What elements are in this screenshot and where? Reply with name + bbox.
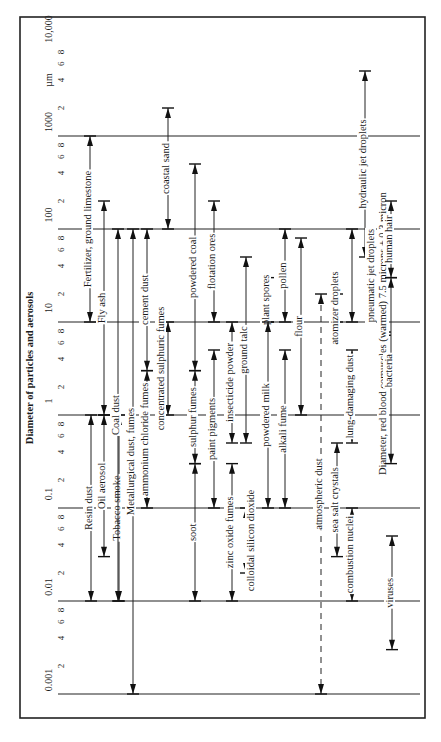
range-label: cement dust xyxy=(139,275,150,326)
arrow-down-icon xyxy=(130,684,136,694)
range-label: lung-damaging dust xyxy=(344,355,355,439)
minor-tick-label: 4 xyxy=(56,449,66,454)
arrow-up-icon xyxy=(362,71,368,81)
minor-tick-label: 6 xyxy=(56,154,66,159)
range-label: paint pigments xyxy=(206,398,217,460)
range-label: ammonium chloride fumes xyxy=(139,383,150,496)
range-label: Tobacco smoke xyxy=(111,475,122,541)
arrow-down-icon xyxy=(298,405,304,415)
range-bar: cement dust xyxy=(139,229,153,371)
range-label: pollen xyxy=(277,262,288,289)
range-bar: coastal sand xyxy=(160,108,174,229)
arrow-down-icon xyxy=(144,498,150,508)
arrow-down-icon xyxy=(282,498,288,508)
arrow-down-icon xyxy=(211,312,217,322)
range-label: Coal dust xyxy=(110,395,121,435)
range-label: bacteria xyxy=(383,354,394,388)
range-label: pneumatic jet droplets xyxy=(365,229,376,322)
range-label: flour xyxy=(293,316,304,337)
range-label: Resin dust xyxy=(83,486,94,530)
range-bar: flour xyxy=(293,238,307,415)
arrow-up-icon xyxy=(211,201,217,211)
arrow-up-icon xyxy=(229,464,235,474)
range-label: ground talc xyxy=(238,326,249,374)
range-label: coastal sand xyxy=(160,142,171,194)
range-label: concentrated sulphuric fumes xyxy=(155,307,166,431)
range-bar: powdered coal xyxy=(187,164,201,371)
minor-tick-label: 6 xyxy=(56,526,66,531)
range-bar: Oil aerosol xyxy=(96,415,110,557)
range-label: powdered milk xyxy=(260,383,271,447)
decade-label: 10,000 xyxy=(43,15,54,43)
minor-tick-label: 4 xyxy=(56,356,66,361)
range-label: alkali fume xyxy=(277,405,288,453)
range-label: Fly ash xyxy=(96,292,107,323)
minor-tick-label: 2 xyxy=(56,292,66,297)
arrow-up-icon xyxy=(101,415,107,425)
arrow-up-icon xyxy=(101,201,107,211)
diagram-canvas: 0.00124680.0124680.124681246810246810024… xyxy=(0,0,441,742)
arrow-down-icon xyxy=(192,361,198,371)
minor-tick-label: 2 xyxy=(56,385,66,390)
axis-title: Diameter of particles and aerosols xyxy=(24,292,35,444)
range-label: hydraulic jet droplets xyxy=(357,119,368,208)
minor-tick-label: 2 xyxy=(56,478,66,483)
arrow-down-icon xyxy=(101,405,107,415)
range-bar: colloidal silicon dioxide xyxy=(240,488,256,592)
range-label: human hair xyxy=(383,215,394,263)
arrow-up-icon xyxy=(211,350,217,360)
arrow-up-icon xyxy=(88,415,94,425)
minor-tick-label: 8 xyxy=(56,49,66,54)
minor-tick-label: 6 xyxy=(56,340,66,345)
arrow-up-icon xyxy=(229,322,235,332)
range-label: insecticide powder xyxy=(224,342,235,422)
range-bar: pneumatic jet droplets xyxy=(346,228,376,323)
decade-label: 0.001 xyxy=(43,669,54,692)
arrow-up-icon xyxy=(282,229,288,239)
arrow-down-icon xyxy=(165,219,171,229)
minor-tick-label: 6 xyxy=(56,433,66,438)
arrow-down-icon xyxy=(282,312,288,322)
range-bar: ammonium chloride fumes xyxy=(139,371,153,508)
arrow-down-icon xyxy=(349,312,355,322)
range-bar: plant spores xyxy=(260,274,274,326)
arrow-up-icon xyxy=(192,371,198,381)
range-bar: Metallurgical dust, fumes xyxy=(125,229,139,694)
arrow-up-icon xyxy=(298,238,304,248)
range-bar: combustion nuclei xyxy=(344,508,358,601)
arrow-up-icon xyxy=(87,136,93,146)
range-label: Metallurgical dust, fumes xyxy=(125,408,136,515)
range-label: soot xyxy=(187,523,198,541)
arrow-up-icon xyxy=(349,229,355,239)
arrow-down-icon xyxy=(87,312,93,322)
range-bar: Fly ash xyxy=(96,201,110,415)
range-bar: pollen xyxy=(277,229,291,322)
arrow-down-icon xyxy=(389,640,395,650)
range-label: atomizer droplets xyxy=(329,271,340,344)
minor-tick-label: 6 xyxy=(56,247,66,252)
minor-tick-label: 2 xyxy=(56,199,66,204)
range-bar: atomizer droplets xyxy=(329,270,343,345)
arrow-up-icon xyxy=(192,164,198,174)
arrow-down-icon xyxy=(243,433,249,443)
arrow-down-icon xyxy=(265,498,271,508)
arrow-up-icon xyxy=(115,229,121,239)
range-bar: zinc oxide fumes xyxy=(224,464,238,601)
range-bar: paint pigments xyxy=(206,350,220,508)
range-label: zinc oxide fumes xyxy=(224,496,235,568)
minor-tick-label: 8 xyxy=(56,328,66,333)
range-label: atmospheric dust xyxy=(313,458,324,530)
particle-size-diagram: 0.00124680.0124680.124681246810246810024… xyxy=(0,0,441,742)
arrow-up-icon xyxy=(144,371,150,381)
range-bar: alkali fume xyxy=(277,350,291,508)
arrow-down-icon xyxy=(229,433,235,443)
minor-tick-label: 8 xyxy=(56,607,66,612)
arrow-up-icon xyxy=(130,229,136,239)
range-label: Fertilizer, ground limestone xyxy=(82,170,93,287)
minor-tick-label: 8 xyxy=(56,514,66,519)
range-label: colloidal silicon dioxide xyxy=(245,489,256,591)
range-label: plant spores xyxy=(260,275,271,325)
range-label: powdered coal xyxy=(187,236,198,298)
arrow-down-icon xyxy=(229,591,235,601)
range-bar: viruses xyxy=(384,536,398,650)
